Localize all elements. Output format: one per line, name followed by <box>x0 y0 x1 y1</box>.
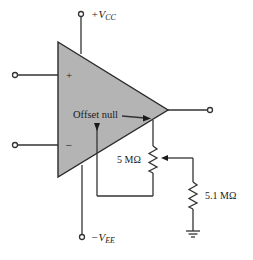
resistor-value-label: 5.1 MΩ <box>205 190 236 201</box>
vee-label: −VEE <box>91 231 115 245</box>
output-terminal <box>208 108 213 113</box>
noninverting-input-terminal <box>13 73 18 78</box>
minus-sign: − <box>66 138 73 152</box>
pot-value-label: 5 MΩ <box>117 154 141 165</box>
plus-sign: + <box>66 69 72 81</box>
potentiometer-5m <box>149 146 157 173</box>
resistor-5-1m <box>189 182 197 209</box>
vcc-label: +VCC <box>91 8 116 22</box>
schematic: + − +VCC −VEE Offset null 5 MΩ 5.1 MΩ <box>0 0 253 260</box>
vee-terminal <box>80 235 85 240</box>
wiper-arrowhead-icon <box>161 155 168 161</box>
vcc-terminal <box>79 12 84 17</box>
offset-null-label: Offset null <box>73 109 118 120</box>
circuit-diagram: + − +VCC −VEE Offset null 5 MΩ 5.1 MΩ <box>0 0 253 260</box>
inverting-input-terminal <box>13 143 18 148</box>
